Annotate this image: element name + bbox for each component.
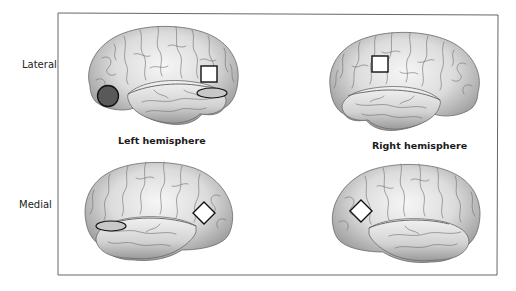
marker-circle-left-lateral [98, 86, 119, 107]
marker-square-right-lateral [372, 56, 388, 72]
row-label-lateral: Lateral [22, 59, 57, 70]
brain-right-lateral [330, 32, 480, 130]
marker-square-left-lateral [201, 66, 217, 82]
hemisphere-label-left: Left hemisphere [118, 135, 206, 146]
hemisphere-label-right: Right hemisphere [372, 140, 467, 151]
brain-figure: Lateral Medial Left hemisphere Right hem… [0, 0, 516, 291]
marker-ellipse-left-medial [96, 221, 126, 231]
row-label-medial: Medial [19, 199, 52, 210]
marker-ellipse-left-lateral [197, 88, 227, 98]
